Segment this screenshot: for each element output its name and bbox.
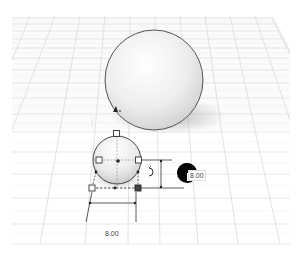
large-sphere[interactable] (105, 30, 203, 130)
width-dimension-label[interactable]: 8.00 (104, 229, 120, 238)
resize-handle-top[interactable] (114, 131, 120, 137)
lift-arrow-icon[interactable] (149, 168, 153, 176)
resize-handle-left[interactable] (96, 157, 102, 163)
height-dimension-label[interactable]: 8.00 (188, 170, 206, 181)
resize-handle-front-left[interactable] (89, 185, 95, 191)
resize-handle-front-right[interactable] (135, 185, 141, 191)
3d-viewport[interactable] (0, 0, 298, 263)
center-point (116, 159, 120, 163)
resize-handle-right[interactable] (136, 157, 142, 163)
